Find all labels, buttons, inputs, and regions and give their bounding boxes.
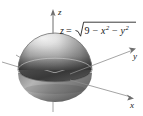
z-axis-label: z bbox=[57, 7, 62, 17]
equation-lhs: z bbox=[59, 25, 64, 36]
y-axis-label: y bbox=[132, 51, 137, 61]
hemisphere-dome-side-shadow bbox=[18, 33, 92, 70]
equation-minus-1: − bbox=[93, 25, 99, 36]
equation-equals: = bbox=[66, 25, 72, 36]
equation-exponent-y: 2 bbox=[126, 24, 130, 31]
hemisphere-figure: z y x z = 9 − x 2 − y 2 bbox=[0, 0, 143, 116]
ground-shadow bbox=[25, 84, 85, 94]
hemisphere-solid bbox=[18, 33, 95, 102]
figure-canvas: z y x z = 9 − x 2 − y 2 bbox=[0, 0, 143, 116]
equation-exponent-x: 2 bbox=[106, 24, 110, 31]
equation-label: z = 9 − x 2 − y 2 bbox=[59, 22, 136, 36]
x-axis-label: x bbox=[129, 100, 134, 110]
equation-radicand-lead: 9 bbox=[85, 25, 90, 36]
equation-minus-2: − bbox=[112, 25, 118, 36]
